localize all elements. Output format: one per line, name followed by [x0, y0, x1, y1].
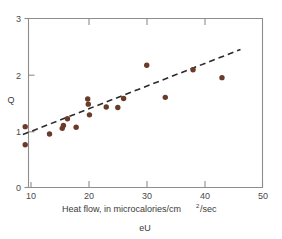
data-point [61, 123, 66, 128]
x-tick-label-30: 30 [142, 191, 152, 201]
x-tick-label-40: 40 [200, 191, 210, 201]
data-point [115, 105, 120, 110]
data-point [85, 96, 90, 101]
y-axis-title: Q [7, 95, 14, 105]
data-point [65, 116, 70, 121]
data-point [23, 142, 28, 147]
x-axis-ticks [31, 181, 263, 188]
y-axis-ticks [25, 19, 35, 188]
data-point [47, 131, 52, 136]
y-tick-label-0: 0 [16, 183, 21, 193]
x-axis-title-suffix: /sec [200, 204, 217, 214]
scatter-plot: 3 2 1 0 10 20 30 40 50 Q Heat flow, in m… [0, 0, 282, 239]
y-tick-label-3: 3 [16, 14, 21, 24]
y-tick-label-2: 2 [16, 71, 21, 81]
data-point [163, 95, 168, 100]
data-points-group [23, 63, 225, 148]
data-point [73, 125, 78, 130]
data-point [219, 75, 224, 80]
data-point [104, 104, 109, 109]
top-axis-ticks [89, 19, 205, 26]
x-tick-label-10: 10 [26, 191, 36, 201]
x-axis-title-main: Heat flow, in microcalories/cm [62, 204, 181, 214]
axes-frame [28, 18, 263, 188]
data-point [121, 96, 126, 101]
data-point [23, 124, 28, 129]
data-point [144, 63, 149, 68]
chart-figure: 3 2 1 0 10 20 30 40 50 Q Heat flow, in m… [0, 0, 282, 239]
data-point [190, 67, 195, 72]
figure-caption: eU [139, 223, 151, 233]
y-tick-label-1: 1 [16, 127, 21, 137]
x-tick-label-20: 20 [84, 191, 94, 201]
trend-line [23, 49, 241, 134]
x-tick-label-50: 50 [258, 191, 268, 201]
x-axis-title: Heat flow, in microcalories/cm 2 /sec [62, 203, 217, 214]
data-point [87, 112, 92, 117]
data-point [86, 101, 91, 106]
